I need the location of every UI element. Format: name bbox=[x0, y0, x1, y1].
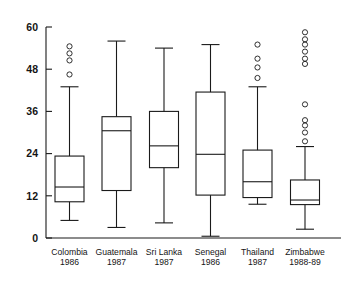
category-label-name: Zimbabwe bbox=[285, 247, 325, 257]
outlier-point bbox=[302, 130, 307, 135]
outlier-point bbox=[302, 30, 307, 35]
outlier-point bbox=[67, 51, 72, 56]
box-iqr bbox=[196, 92, 225, 195]
category-label-year: 1987 bbox=[248, 257, 267, 267]
outlier-point bbox=[302, 102, 307, 107]
box-iqr bbox=[150, 111, 179, 167]
y-tick-label-0: 0 bbox=[32, 232, 38, 244]
outlier-point bbox=[302, 56, 307, 61]
outlier-point bbox=[302, 123, 307, 128]
box-iqr bbox=[291, 180, 320, 205]
category-label-name: Guatemala bbox=[95, 247, 137, 257]
outlier-point bbox=[302, 49, 307, 54]
outlier-point bbox=[302, 61, 307, 66]
outlier-point bbox=[255, 65, 260, 70]
box-thailand bbox=[243, 42, 272, 204]
y-tick-label-60: 60 bbox=[26, 21, 38, 33]
box-sri-lanka bbox=[150, 48, 179, 223]
category-label-name: Senegal bbox=[195, 247, 227, 257]
y-tick-label-48: 48 bbox=[26, 63, 38, 75]
box-colombia bbox=[55, 44, 84, 221]
category-label-year: 1986 bbox=[60, 257, 79, 267]
box-senegal bbox=[196, 45, 225, 237]
category-label-year: 1986 bbox=[201, 257, 220, 267]
outlier-point bbox=[67, 58, 72, 63]
outlier-point bbox=[255, 75, 260, 80]
outlier-point bbox=[302, 37, 307, 42]
y-tick-label-12: 12 bbox=[26, 190, 38, 202]
box-iqr bbox=[102, 117, 131, 191]
category-label-name: Colombia bbox=[51, 247, 88, 257]
category-label-year: 1987 bbox=[154, 257, 173, 267]
outlier-point bbox=[302, 42, 307, 47]
category-label-year: 1987 bbox=[107, 257, 126, 267]
y-tick-label-24: 24 bbox=[26, 147, 38, 159]
boxplot-figure: 01224364860 Colombia1986Guatemala1987Sri… bbox=[0, 0, 349, 283]
boxplot-svg: 01224364860 Colombia1986Guatemala1987Sri… bbox=[0, 0, 349, 283]
outlier-point bbox=[67, 44, 72, 49]
box-zimbabwe bbox=[291, 30, 320, 230]
outlier-point bbox=[255, 42, 260, 47]
box-iqr bbox=[55, 156, 84, 202]
outlier-point bbox=[67, 72, 72, 77]
box-guatemala bbox=[102, 41, 131, 227]
outlier-point bbox=[302, 139, 307, 144]
category-label-name: Sri Lanka bbox=[146, 247, 183, 257]
category-labels: Colombia1986Guatemala1987Sri Lanka1987Se… bbox=[51, 247, 325, 267]
category-label-year: 1988-89 bbox=[289, 257, 321, 267]
category-label-name: Thailand bbox=[241, 247, 274, 257]
outlier-point bbox=[302, 118, 307, 123]
outlier-point bbox=[255, 56, 260, 61]
box-iqr bbox=[243, 150, 272, 197]
y-axis: 01224364860 bbox=[26, 21, 52, 244]
y-tick-label-36: 36 bbox=[26, 105, 38, 117]
box-series bbox=[55, 30, 320, 237]
